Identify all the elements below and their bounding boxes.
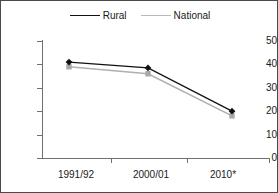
legend-line-rural bbox=[70, 15, 100, 17]
series-markers-rural bbox=[66, 59, 236, 115]
y-tick-label-10: 10 bbox=[243, 130, 277, 140]
data-point-rural-2010* bbox=[229, 108, 236, 115]
x-axis-line bbox=[42, 158, 270, 159]
x-tick-1 bbox=[111, 159, 112, 163]
y-tick-0 bbox=[37, 158, 42, 159]
series-line-national bbox=[69, 67, 232, 116]
y-tick-30 bbox=[37, 88, 42, 89]
y-tick-label-0: 0 bbox=[243, 153, 277, 163]
y-tick-40 bbox=[37, 64, 42, 65]
data-point-national-2010* bbox=[229, 113, 234, 118]
legend-label-rural: Rural bbox=[103, 10, 127, 21]
series-markers-national bbox=[66, 64, 234, 119]
series-line-rural bbox=[69, 62, 232, 111]
data-point-national-2000/01 bbox=[145, 71, 150, 76]
x-tick-2 bbox=[187, 159, 188, 163]
x-tick-label-2010: 2010* bbox=[210, 169, 236, 180]
y-axis-line bbox=[42, 40, 43, 159]
y-tick-10 bbox=[37, 135, 42, 136]
legend-swatch-rural bbox=[70, 10, 100, 21]
data-point-rural-1991/92 bbox=[66, 59, 73, 66]
y-tick-label-20: 20 bbox=[243, 106, 277, 116]
chart-figure: Rural National 50 40 30 20 10 0 1991/92 … bbox=[0, 0, 278, 193]
y-tick-label-30: 30 bbox=[243, 83, 277, 93]
y-tick-label-40: 40 bbox=[243, 59, 277, 69]
y-tick-20 bbox=[37, 111, 42, 112]
legend-label-national: National bbox=[174, 10, 211, 21]
x-tick-3 bbox=[269, 159, 270, 163]
legend-swatch-national bbox=[141, 10, 171, 21]
y-tick-label-50: 50 bbox=[243, 36, 277, 46]
square-marker-icon bbox=[152, 12, 153, 30]
data-point-rural-2000/01 bbox=[145, 65, 152, 72]
x-tick-label-2000-01: 2000/01 bbox=[133, 169, 169, 180]
y-tick-50 bbox=[37, 41, 42, 42]
x-tick-label-1991-92: 1991/92 bbox=[58, 169, 94, 180]
data-point-national-1991/92 bbox=[66, 64, 71, 69]
legend-entry-rural: Rural bbox=[70, 10, 127, 21]
legend-line-national bbox=[141, 15, 171, 17]
chart-legend: Rural National bbox=[1, 6, 278, 24]
legend-entry-national: National bbox=[141, 10, 211, 21]
